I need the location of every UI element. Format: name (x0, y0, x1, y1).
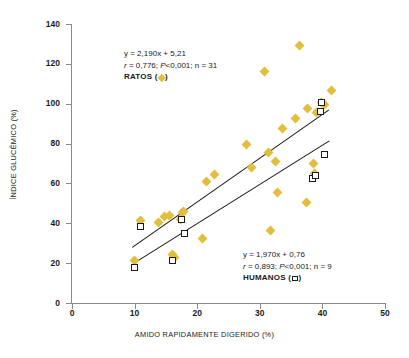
data-point-ratos (270, 157, 280, 167)
data-point-ratos (301, 197, 311, 207)
y-tick-mark (66, 223, 71, 224)
legend-rats-close: ) (165, 72, 168, 81)
data-point-humanos (312, 172, 319, 179)
legend-label-rats: RATOS ( (124, 72, 158, 81)
data-point-ratos (202, 176, 212, 186)
x-tick-label: 30 (245, 309, 275, 318)
data-point-humanos (137, 223, 144, 230)
x-tick-label: 0 (57, 309, 87, 318)
y-tick-mark (66, 24, 71, 25)
y-tick-label: 80 (32, 139, 60, 148)
y-tick-label: 140 (32, 20, 60, 29)
humans-stat-r-value: = 0,893; (246, 262, 280, 271)
square-marker-icon (292, 276, 298, 282)
data-point-ratos (242, 140, 252, 150)
regression-line-humanos (135, 141, 330, 263)
legend-humans-close: ) (299, 273, 302, 282)
regression-line-ratos (132, 110, 329, 248)
y-tick-label: 0 (32, 299, 60, 308)
humans-equation: y = 1,970x + 0,76 (243, 249, 332, 261)
data-point-ratos (327, 86, 337, 96)
y-axis-title: ÍNDICE GLUCÊMICO (%) (9, 80, 18, 230)
x-tick-label: 40 (307, 309, 337, 318)
annotation-rats: y = 2,190x + 5,21 r = 0,776; P<0,001; n … (124, 48, 217, 83)
x-tick-label: 10 (120, 309, 150, 318)
y-tick-mark (66, 263, 71, 264)
humans-statistics: r = 0,893; P<0,001; n = 9 (243, 261, 332, 273)
x-axis-line (72, 303, 386, 304)
glycemic-index-scatter-figure: 020406080100120140 01020304050 AMIDO RAP… (0, 0, 409, 358)
y-tick-label: 60 (32, 179, 60, 188)
plot-area (72, 24, 385, 303)
data-point-ratos (294, 41, 304, 51)
data-point-ratos (277, 124, 287, 134)
data-point-humanos (178, 216, 185, 223)
legend-label-humans: HUMANOS ( (243, 273, 291, 282)
x-tick-label: 50 (370, 309, 400, 318)
data-point-humanos (318, 99, 325, 106)
data-point-ratos (246, 163, 256, 173)
rats-stat-p-value: <0,001; n = 31 (166, 61, 218, 70)
y-tick-mark (66, 104, 71, 105)
y-tick-label: 20 (32, 259, 60, 268)
y-tick-label: 100 (32, 99, 60, 108)
data-point-humanos (317, 108, 324, 115)
data-point-ratos (308, 159, 318, 169)
humans-stat-p-value: <0,001; n = 9 (285, 262, 332, 271)
data-point-humanos (169, 257, 176, 264)
data-point-humanos (181, 230, 188, 237)
data-point-humanos (131, 264, 138, 271)
y-tick-label: 40 (32, 219, 60, 228)
y-tick-label: 120 (32, 59, 60, 68)
y-tick-mark (66, 183, 71, 184)
annotation-humans: y = 1,970x + 0,76 r = 0,893; P<0,001; n … (243, 249, 332, 284)
data-point-ratos (260, 67, 270, 77)
data-point-ratos (265, 225, 275, 235)
x-tick-label: 20 (182, 309, 212, 318)
rats-equation: y = 2,190x + 5,21 (124, 48, 217, 60)
data-point-ratos (209, 170, 219, 180)
y-tick-mark (66, 144, 71, 145)
data-point-ratos (197, 233, 207, 243)
x-axis-title: AMIDO RAPIDAMENTE DIGERIDO (%) (0, 330, 409, 339)
legend-entry-rats: RATOS () (124, 71, 217, 83)
legend-entry-humans: HUMANOS () (243, 272, 332, 284)
rats-stat-r-value: = 0,776; (127, 61, 161, 70)
data-point-ratos (291, 114, 301, 124)
y-tick-mark (66, 303, 71, 304)
data-point-ratos (273, 187, 283, 197)
rats-statistics: r = 0,776; P<0,001; n = 31 (124, 60, 217, 72)
y-tick-mark (66, 64, 71, 65)
data-point-humanos (321, 151, 328, 158)
